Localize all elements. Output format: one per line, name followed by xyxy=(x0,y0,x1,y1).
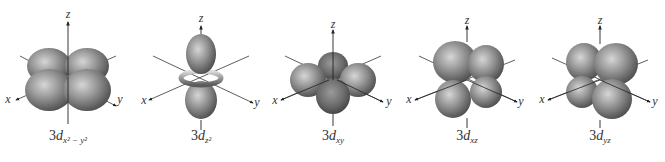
lobe xyxy=(63,69,111,111)
y-axis-label: y xyxy=(651,94,658,108)
orbital-dxz: z x y xyxy=(405,13,524,128)
orbital-dz2: z x y xyxy=(140,11,260,130)
y-axis-label: y xyxy=(385,94,392,108)
x-axis-label: x xyxy=(271,93,278,107)
x-axis-label: x xyxy=(4,92,11,106)
orbital-label-dz2: 3dz² xyxy=(191,128,211,145)
y-axis-label: y xyxy=(116,92,123,106)
x-axis-label: x xyxy=(140,93,147,107)
lobe xyxy=(594,43,638,85)
lobe-top xyxy=(186,34,216,74)
orbital-label-dxz: 3dxz xyxy=(456,128,478,145)
z-axis-label: z xyxy=(330,17,336,31)
lobe xyxy=(470,76,502,108)
orbital-label-dyz: 3dyz xyxy=(589,128,611,145)
orbital-dxy: z x y xyxy=(271,17,392,126)
z-axis-label: z xyxy=(65,7,71,21)
z-axis-label: z xyxy=(198,11,204,25)
x-axis-label: x xyxy=(538,92,545,106)
orbital-dx2-y2: z x y xyxy=(4,7,123,124)
d-orbitals-figure: z x y z x y z x y xyxy=(0,0,665,162)
y-axis-label: y xyxy=(253,95,260,109)
z-axis-label: z xyxy=(464,13,470,27)
orbital-label-dx2-y2: 3dx² − y² xyxy=(49,128,87,145)
z-axis-label: z xyxy=(597,13,603,27)
x-axis-label: x xyxy=(405,92,412,106)
orbital-dyz: z x y xyxy=(538,13,658,128)
orbital-label-dxy: 3dxy xyxy=(322,128,344,145)
y-axis-label: y xyxy=(517,94,524,108)
